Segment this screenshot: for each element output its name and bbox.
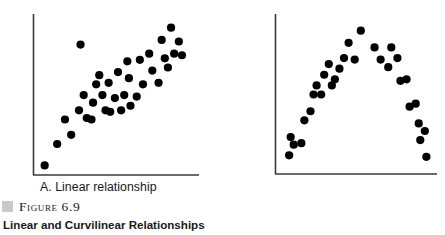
scatter-point (145, 50, 153, 58)
scatter-point (148, 66, 156, 74)
data-point-group-b (285, 27, 430, 161)
data-point-group-a (41, 24, 186, 170)
scatter-point (422, 153, 430, 161)
figure-root: A. Linear relationship B. Curvilinear re… (0, 0, 445, 235)
scatter-point (170, 50, 178, 58)
scatter-point (317, 90, 325, 98)
scatter-point (76, 40, 84, 48)
scatter-point (306, 107, 314, 115)
scatter-point (133, 92, 141, 100)
panel-a-caption: A. Linear relationship (40, 180, 157, 194)
scatter-point (351, 55, 359, 63)
scatter-point (309, 90, 317, 98)
scatter-point (402, 75, 410, 83)
scatter-point (384, 63, 392, 71)
scatter-point (416, 136, 424, 144)
scatter-point (164, 63, 172, 71)
scatter-point (98, 91, 106, 99)
scatter-point (285, 151, 293, 159)
scatter-point (421, 127, 429, 135)
scatter-point (320, 71, 328, 79)
scatter-point (111, 94, 119, 102)
scatter-point (125, 74, 133, 82)
scatter-point (393, 54, 401, 62)
scatter-point (126, 102, 134, 110)
scatter-point (136, 56, 144, 64)
scatter-point (53, 140, 61, 148)
scatter-point (340, 54, 348, 62)
scatter-point (345, 39, 353, 47)
figure-caption-block: Figure 6.9 Linear and Curvilinear Relati… (2, 198, 302, 231)
scatter-panel-curvilinear: B. Curvilinear relationship (248, 0, 445, 200)
scatter-point (370, 43, 378, 51)
scatter-point (287, 133, 295, 141)
scatter-point (312, 81, 320, 89)
scatter-point (158, 36, 166, 44)
scatter-point (331, 75, 339, 83)
scatter-point (377, 55, 385, 63)
scatter-point (41, 161, 49, 169)
scatter-point (175, 37, 183, 45)
scatter-point (325, 60, 333, 68)
scatter-point (117, 106, 125, 114)
figure-title-text: Linear and Curvilinear Relationships (3, 218, 302, 231)
scatter-point (75, 106, 83, 114)
scatter-point (167, 24, 175, 32)
scatter-point (114, 68, 122, 76)
scatter-point (297, 139, 305, 147)
linear-relationship-plot (0, 0, 230, 200)
scatter-point (139, 80, 147, 88)
scatter-point (300, 116, 308, 124)
figure-marker-square (2, 201, 13, 212)
scatter-point (61, 115, 69, 123)
scatter-point (92, 80, 100, 88)
scatter-point (120, 91, 128, 99)
scatter-point (412, 100, 420, 108)
scatter-point (123, 57, 131, 65)
scatter-point (106, 108, 114, 116)
scatter-point (357, 27, 365, 35)
scatter-point (290, 141, 298, 149)
scatter-point (80, 91, 88, 99)
scatter-point (178, 51, 186, 59)
scatter-point (67, 131, 75, 139)
scatter-point (154, 79, 162, 87)
curvilinear-relationship-plot (248, 0, 445, 200)
figure-number-label: Figure 6.9 (19, 199, 80, 215)
scatter-point (415, 119, 423, 127)
scatter-point (95, 71, 103, 79)
scatter-point (387, 43, 395, 51)
scatter-point (87, 115, 95, 123)
figure-label-row: Figure 6.9 (2, 198, 302, 215)
scatter-point (89, 99, 97, 107)
scatter-point (161, 54, 169, 62)
scatter-point (335, 65, 343, 73)
scatter-panel-linear: A. Linear relationship (0, 0, 230, 200)
scatter-point (105, 79, 113, 87)
